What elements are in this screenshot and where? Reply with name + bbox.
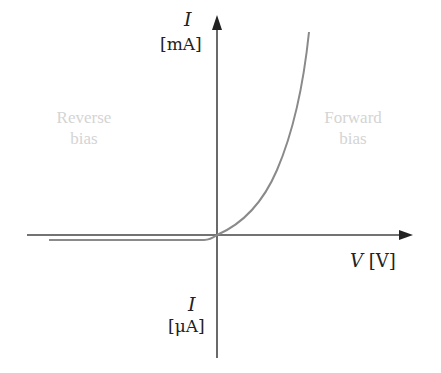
x-axis-arrow-icon (399, 230, 413, 240)
forward-bias-label: Forward bias (313, 107, 393, 149)
reverse-line1: Reverse (44, 107, 124, 128)
y-top-symbol: I (184, 8, 192, 30)
reverse-line2: bias (44, 128, 124, 149)
x-axis-label: V [V] (350, 250, 396, 271)
forward-line1: Forward (313, 107, 393, 128)
iv-diagram: I [mA] I [μA] V [V] Reverse bias Forward… (0, 0, 441, 373)
y-top-unit: [mA] (160, 34, 202, 54)
forward-line2: bias (313, 128, 393, 149)
reverse-bias-label: Reverse bias (44, 107, 124, 149)
y-axis-arrow-icon (212, 15, 222, 30)
y-bottom-unit: [μA] (168, 316, 205, 336)
x-unit: [V] (369, 250, 396, 271)
y-bottom-symbol: I (188, 293, 196, 315)
x-symbol: V (350, 250, 363, 271)
diagram-svg (0, 0, 441, 373)
